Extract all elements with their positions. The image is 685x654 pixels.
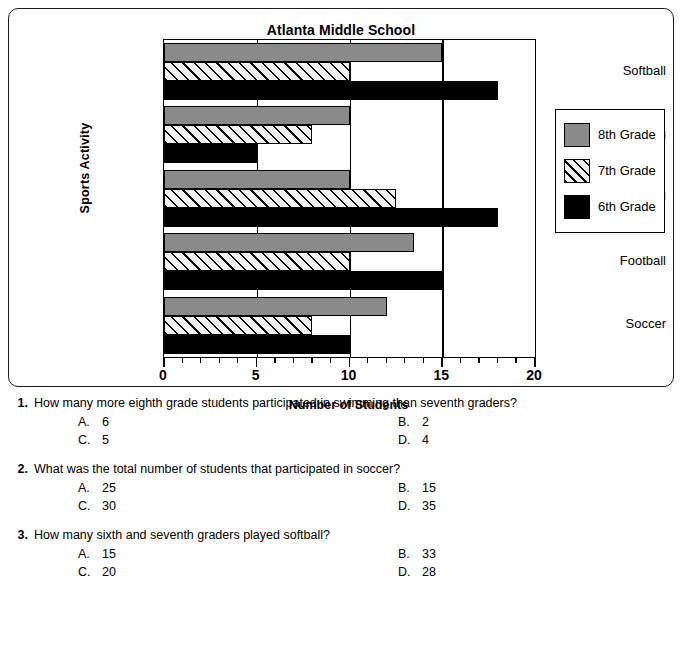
question-text: How many sixth and seventh graders playe… [34,528,330,543]
answer-choice-c[interactable]: C.20 [78,563,398,581]
x-tick-minor [200,358,201,363]
question-stem: 2.What was the total number of students … [0,462,685,477]
legend-swatch-8th-grade [564,123,590,147]
question-number: 1. [0,396,34,410]
question-stem: 1.How many more eighth grade students pa… [0,396,685,411]
choice-column-left: A.6C.5 [78,413,398,449]
x-tick-label-10: 10 [341,367,357,383]
question-block: 3.How many sixth and seventh graders pla… [0,528,685,581]
bar-soccer-7th-grade [164,316,312,335]
bar-basketball-6th-grade [164,208,498,227]
y-category-football: Football [533,254,673,268]
x-tick-minor [311,358,312,363]
x-tick-label-20: 20 [526,367,542,383]
bar-basketball-7th-grade [164,189,396,208]
x-tick-minor [330,358,331,363]
choice-value: 28 [422,563,436,581]
choice-value: 2 [422,413,429,431]
x-tick-minor [404,358,405,363]
x-tick-minor [386,358,387,363]
legend-label: 6th Grade [598,199,656,214]
question-number: 2. [0,462,34,476]
legend-swatch-7th-grade [564,159,590,183]
choice-value: 25 [102,479,116,497]
answer-choice-a[interactable]: A.25 [78,479,398,497]
choice-value: 30 [102,497,116,515]
choice-value: 6 [102,413,109,431]
x-tick-minor [460,358,461,363]
x-axis: 05101520 [163,358,534,398]
bar-swimming-8th-grade [164,106,350,125]
choice-column-left: A.15C.20 [78,545,398,581]
choice-letter: D. [398,497,422,515]
x-tick-major [349,358,351,367]
x-tick-minor [293,358,294,363]
question-block: 2.What was the total number of students … [0,462,685,515]
question-text: How many more eighth grade students part… [34,396,517,411]
x-tick-major [256,358,258,367]
answer-choice-b[interactable]: B.2 [398,413,658,431]
answer-choice-d[interactable]: D.28 [398,563,658,581]
legend: 8th Grade7th Grade6th Grade [555,109,665,233]
choice-value: 33 [422,545,436,563]
chart-card: Atlanta Middle School Sports Activity So… [8,8,674,387]
choice-grid: A.25C.30B.15D.35 [0,479,685,515]
bar-soccer-6th-grade [164,335,350,354]
questions-list: 1.How many more eighth grade students pa… [0,396,685,594]
y-category-soccer: Soccer [533,317,673,331]
bar-football-8th-grade [164,233,414,252]
question-block: 1.How many more eighth grade students pa… [0,396,685,449]
answer-choice-b[interactable]: B.33 [398,545,658,563]
choice-letter: C. [78,497,102,515]
bar-swimming-6th-grade [164,144,257,163]
choice-value: 15 [102,545,116,563]
x-tick-minor [237,358,238,363]
answer-choice-d[interactable]: D.4 [398,431,658,449]
x-tick-minor [274,358,275,363]
y-category-softball: Softball [533,64,673,78]
question-text: What was the total number of students th… [34,462,400,477]
choice-letter: A. [78,413,102,431]
x-tick-major [534,358,536,367]
x-tick-major [163,358,165,367]
answer-choice-a[interactable]: A.6 [78,413,398,431]
bar-basketball-8th-grade [164,170,350,189]
x-tick-minor [497,358,498,363]
x-tick-minor [478,358,479,363]
answer-choice-c[interactable]: C.5 [78,431,398,449]
x-tick-label-0: 0 [159,367,167,383]
bar-softball-8th-grade [164,43,442,62]
choice-letter: D. [398,563,422,581]
legend-label: 7th Grade [598,163,656,178]
choice-column-left: A.25C.30 [78,479,398,515]
answer-choice-b[interactable]: B.15 [398,479,658,497]
x-tick-major [441,358,443,367]
answer-choice-a[interactable]: A.15 [78,545,398,563]
answer-choice-c[interactable]: C.30 [78,497,398,515]
choice-value: 15 [422,479,436,497]
legend-item-8th-grade: 8th Grade [564,119,664,150]
x-tick-label-5: 5 [252,367,260,383]
choice-column-right: B.33D.28 [398,545,658,581]
legend-swatch-6th-grade [564,195,590,219]
answer-choice-d[interactable]: D.35 [398,497,658,515]
x-tick-minor [182,358,183,363]
x-tick-minor [423,358,424,363]
bar-soccer-8th-grade [164,297,387,316]
choice-letter: A. [78,545,102,563]
question-number: 3. [0,528,34,542]
x-tick-minor [367,358,368,363]
choice-column-right: B.15D.35 [398,479,658,515]
choice-value: 20 [102,563,116,581]
bar-softball-6th-grade [164,81,498,100]
choice-value: 4 [422,431,429,449]
choice-grid: A.15C.20B.33D.28 [0,545,685,581]
chart-title: Atlanta Middle School [9,22,673,38]
choice-grid: A.6C.5B.2D.4 [0,413,685,449]
choice-letter: B. [398,545,422,563]
x-tick-minor [219,358,220,363]
bar-football-6th-grade [164,271,442,290]
bar-softball-7th-grade [164,62,350,81]
bar-football-7th-grade [164,252,350,271]
choice-letter: B. [398,479,422,497]
